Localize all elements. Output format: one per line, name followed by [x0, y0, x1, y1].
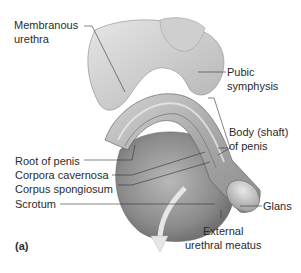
label-body-shaft: Body (shaft) [229, 126, 288, 138]
label-scrotum: Scrotum [15, 198, 56, 210]
label-external-urethral-meatus: External [203, 225, 243, 237]
label-root-of-penis: Root of penis [15, 155, 80, 167]
label-membranous-urethra: Membranous [14, 19, 78, 31]
label-pubic-symphysis-2: symphysis [227, 80, 278, 92]
label-pubic-symphysis: Pubic [227, 66, 255, 78]
label-external-urethral-meatus-2: urethral meatus [185, 239, 261, 251]
label-membranous-urethra-2: urethra [14, 33, 49, 45]
label-body-shaft-2: of penis [229, 140, 268, 152]
label-corpus-spongiosum: Corpus spongiosum [15, 183, 113, 195]
label-corpora-cavernosa: Corpora cavernosa [15, 169, 109, 181]
label-glans: Glans [263, 200, 292, 212]
panel-label: (a) [15, 240, 28, 252]
